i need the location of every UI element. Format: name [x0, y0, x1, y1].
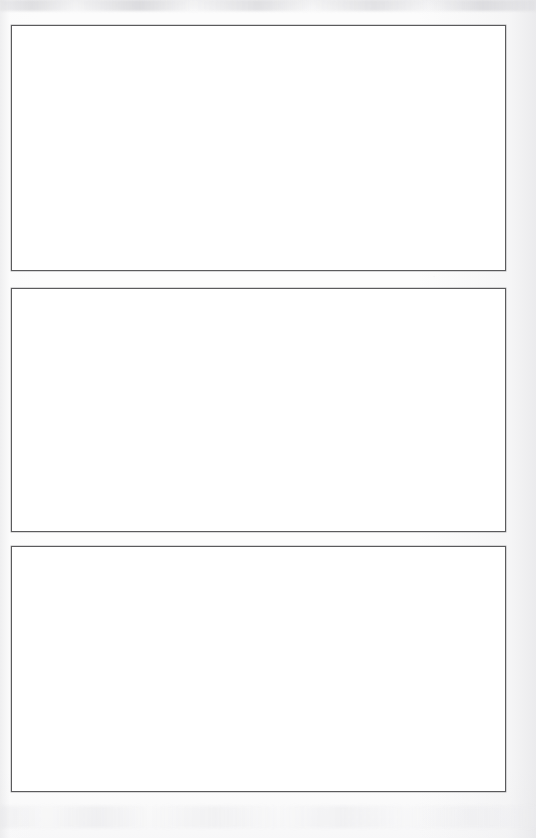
- frame-box-2-content: [12, 289, 505, 531]
- empty-frame-box-3: [11, 546, 506, 792]
- frame-box-1-content: [12, 26, 505, 270]
- frame-box-3-content: [12, 547, 505, 791]
- empty-frame-box-2: [11, 288, 506, 532]
- empty-frame-box-1: [11, 25, 506, 271]
- scan-artifact-bottom-smudge: [0, 806, 536, 828]
- scan-artifact-top-smudge: [0, 0, 536, 11]
- scanned-page: [0, 0, 536, 838]
